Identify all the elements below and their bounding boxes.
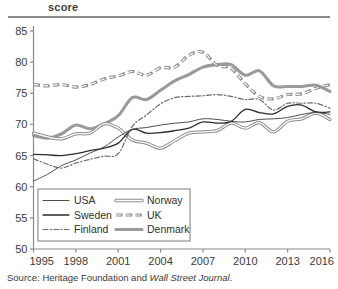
x-tick-label: 1998 bbox=[64, 255, 88, 267]
y-tick-label: 80 bbox=[15, 56, 27, 68]
y-tick-label: 70 bbox=[15, 118, 27, 130]
x-axis: 19951998200120042007201020132016 bbox=[30, 249, 335, 267]
series-line-finland bbox=[34, 95, 331, 169]
x-tick-label: 2013 bbox=[275, 255, 299, 267]
x-tick-label: 2016 bbox=[310, 255, 334, 267]
chart-header: score bbox=[0, 0, 338, 16]
source-italic: Wall Street Journal bbox=[150, 272, 230, 283]
series-line-norway bbox=[34, 113, 331, 148]
page-title: score bbox=[48, 1, 78, 13]
chart-figure: score 5055606570758085 19951998200120042… bbox=[0, 0, 338, 289]
y-tick-label: 75 bbox=[15, 87, 27, 99]
legend-label: USA bbox=[74, 194, 96, 206]
y-tick-label: 65 bbox=[15, 150, 27, 162]
legend-label: Finland bbox=[74, 223, 109, 235]
x-tick-label: 2007 bbox=[191, 255, 215, 267]
chart-legend: USANorwaySwedenUKFinlandDenmark bbox=[38, 189, 190, 241]
x-tick-label: 2004 bbox=[148, 255, 172, 267]
y-tick-label: 60 bbox=[15, 181, 27, 193]
series-lines bbox=[34, 52, 331, 181]
x-tick-label: 2001 bbox=[106, 255, 130, 267]
legend-label: Sweden bbox=[74, 209, 112, 221]
source-suffix: . bbox=[230, 272, 233, 283]
series-line-denmark bbox=[34, 64, 331, 138]
y-tick-label: 85 bbox=[15, 25, 27, 37]
legend-label: UK bbox=[147, 209, 162, 221]
y-tick-label: 55 bbox=[15, 212, 27, 224]
y-axis: 5055606570758085 bbox=[15, 25, 33, 255]
legend-label: Denmark bbox=[147, 223, 190, 235]
x-tick-label: 2010 bbox=[233, 255, 257, 267]
source-prefix: Source: Heritage Foundation and bbox=[7, 272, 150, 283]
series-line-sweden bbox=[34, 105, 331, 156]
source-note: Source: Heritage Foundation and Wall Str… bbox=[7, 272, 232, 283]
legend-label: Norway bbox=[147, 194, 183, 206]
x-tick-label: 1995 bbox=[30, 255, 54, 267]
y-tick-label: 50 bbox=[15, 243, 27, 255]
line-chart-plot: 5055606570758085 19951998200120042007201… bbox=[0, 18, 338, 268]
series-line-uk bbox=[34, 52, 331, 99]
